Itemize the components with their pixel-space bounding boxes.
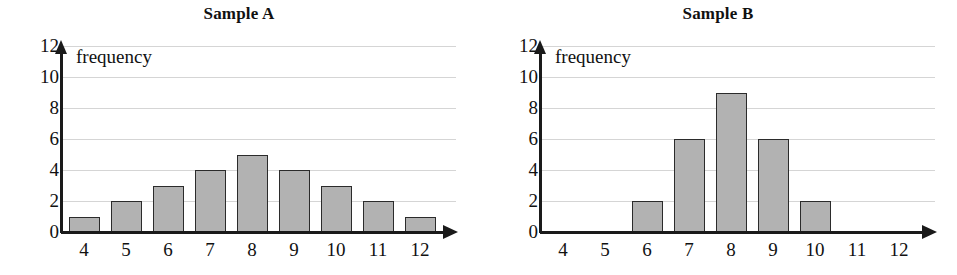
x-tick-label: 8 bbox=[709, 240, 753, 259]
y-tick-label: 8 bbox=[502, 98, 538, 117]
x-tick-label: 4 bbox=[541, 240, 585, 259]
x-tick-label: 10 bbox=[793, 240, 837, 259]
y-tick-label: 6 bbox=[502, 129, 538, 148]
x-tick-label: 6 bbox=[625, 240, 669, 259]
chart-sample-a: Sample A 024681012 frequency 45678910111… bbox=[0, 0, 478, 275]
y-axis-label-sample-b: frequency bbox=[555, 47, 631, 67]
y-axis-arrow-icon bbox=[534, 40, 546, 54]
x-tick-label: 10 bbox=[314, 240, 358, 259]
bar bbox=[405, 217, 436, 233]
y-tick-label: 10 bbox=[23, 67, 59, 86]
y-tick-label: 0 bbox=[23, 222, 59, 241]
x-tick-label: 11 bbox=[835, 240, 879, 259]
bar bbox=[111, 201, 142, 232]
bar bbox=[321, 186, 352, 233]
plot-area-sample-b: 024681012 frequency 456789101112 bbox=[479, 0, 957, 275]
bar bbox=[69, 217, 100, 233]
y-tick-label: 10 bbox=[502, 67, 538, 86]
x-tick-label: 6 bbox=[146, 240, 190, 259]
y-tick-label: 2 bbox=[23, 191, 59, 210]
y-axis-label-sample-a: frequency bbox=[76, 47, 152, 67]
bar bbox=[632, 201, 663, 232]
y-tick-label: 6 bbox=[23, 129, 59, 148]
y-tick-label: 0 bbox=[502, 222, 538, 241]
y-tick-label: 4 bbox=[23, 160, 59, 179]
y-axis-arrow-icon bbox=[55, 40, 67, 54]
bar bbox=[153, 186, 184, 233]
x-tick-label: 8 bbox=[230, 240, 274, 259]
x-tick-label: 11 bbox=[356, 240, 400, 259]
y-tick-label: 12 bbox=[23, 36, 59, 55]
y-tick-label: 8 bbox=[23, 98, 59, 117]
bar bbox=[279, 170, 310, 232]
x-axis-arrow-icon bbox=[922, 225, 937, 239]
x-tick-label: 12 bbox=[877, 240, 921, 259]
x-axis-arrow-icon bbox=[443, 225, 458, 239]
bar bbox=[363, 201, 394, 232]
gridline bbox=[62, 77, 456, 78]
bar bbox=[716, 93, 747, 233]
x-tick-label: 4 bbox=[62, 240, 106, 259]
bar bbox=[237, 155, 268, 233]
gridline bbox=[62, 108, 456, 109]
y-tick-label: 2 bbox=[502, 191, 538, 210]
bar bbox=[674, 139, 705, 232]
x-tick-label: 5 bbox=[583, 240, 627, 259]
x-tick-label: 5 bbox=[104, 240, 148, 259]
bar bbox=[758, 139, 789, 232]
gridline bbox=[62, 139, 456, 140]
bar bbox=[800, 201, 831, 232]
y-axis-line bbox=[539, 52, 542, 233]
gridline bbox=[541, 77, 935, 78]
y-tick-label: 12 bbox=[502, 36, 538, 55]
x-axis-line bbox=[61, 231, 445, 234]
x-tick-label: 9 bbox=[751, 240, 795, 259]
plot-area-sample-a: 024681012 frequency 456789101112 bbox=[0, 0, 478, 275]
y-tick-label: 4 bbox=[502, 160, 538, 179]
x-tick-label: 12 bbox=[398, 240, 442, 259]
x-axis-line bbox=[540, 231, 924, 234]
x-tick-label: 7 bbox=[667, 240, 711, 259]
x-tick-label: 7 bbox=[188, 240, 232, 259]
x-tick-label: 9 bbox=[272, 240, 316, 259]
chart-sample-b: Sample B 024681012 frequency 45678910111… bbox=[479, 0, 957, 275]
y-axis-line bbox=[60, 52, 63, 233]
bar bbox=[195, 170, 226, 232]
